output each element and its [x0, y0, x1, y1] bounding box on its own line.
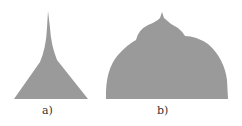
panel-label-b: b) — [157, 104, 168, 117]
shape-b — [106, 12, 228, 99]
figure-canvas — [0, 0, 242, 126]
shape-a — [14, 11, 88, 99]
panel-label-a: a) — [42, 104, 53, 117]
